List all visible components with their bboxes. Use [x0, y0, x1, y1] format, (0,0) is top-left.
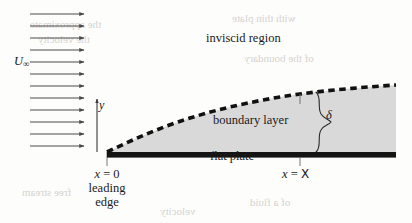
freestream-arrows: [30, 14, 84, 146]
leading-edge-x-value: = 0: [100, 167, 120, 181]
leading-edge-x-zero: x = 0: [94, 167, 119, 181]
leading-edge-label: x = 0 leading edge: [76, 167, 138, 209]
flat-plate-label: flat plate: [210, 149, 254, 163]
boundary-layer-label: boundary layer: [213, 113, 288, 127]
boundary-layer-figure: the approximate the velocity with thin p…: [0, 0, 412, 223]
x-station-label: x = Ⅹ: [282, 167, 309, 181]
leading-edge-word-leading: leading: [76, 181, 138, 195]
inviscid-region-label: inviscid region: [206, 31, 281, 45]
delta-label: δ: [326, 108, 332, 122]
freestream-velocity-label: U∞: [14, 54, 29, 69]
x-station-value: Ⅹ: [301, 167, 309, 181]
y-axis-label: y: [99, 99, 104, 112]
leading-edge-word-edge: edge: [76, 195, 138, 209]
freestream-velocity-symbol: U: [14, 54, 23, 68]
freestream-velocity-subscript: ∞: [23, 59, 29, 69]
x-station-equals: =: [288, 167, 301, 181]
